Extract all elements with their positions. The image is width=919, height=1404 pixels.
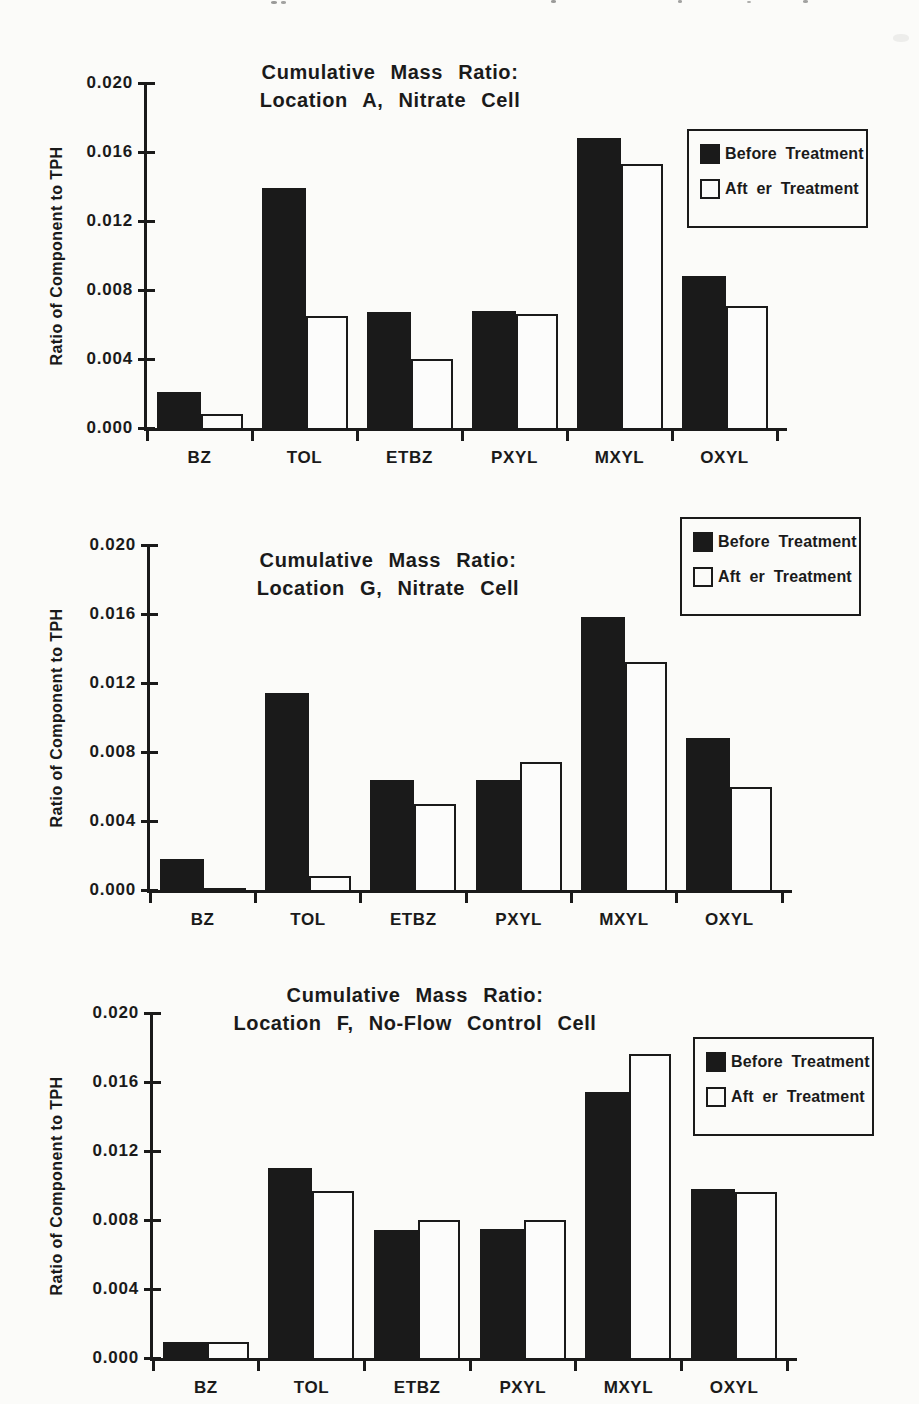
y-axis-tick-label: 0.004 (84, 811, 136, 831)
x-axis-tick (149, 892, 152, 903)
bar-group: PXYL (470, 1013, 576, 1358)
bar-after-treatment (414, 804, 456, 890)
y-axis-tick (138, 358, 155, 361)
y-axis-tick-label: 0.020 (84, 535, 136, 555)
x-axis-category-label: OXYL (672, 448, 777, 468)
legend: Before Treatment Aft er Treatment (687, 129, 868, 228)
y-axis-tick-label: 0.016 (81, 142, 133, 162)
legend-item-before: Before Treatment (693, 532, 859, 552)
chart-location-f-no-flow-control-cell: Cumulative Mass Ratio: Location F, No-Fl… (0, 0, 919, 1404)
legend-swatch-after-open-square (706, 1087, 726, 1107)
x-axis-line (787, 1358, 797, 1361)
bar-group: BZ (153, 1013, 259, 1358)
bar-before-treatment (476, 780, 520, 890)
bar-before-treatment (160, 859, 204, 890)
x-axis-tick (566, 430, 569, 441)
legend-label-before: Before Treatment (731, 1053, 870, 1071)
bar-before-treatment (262, 188, 306, 428)
bar-group: ETBZ (364, 1013, 470, 1358)
x-axis-tick (363, 1360, 366, 1371)
y-axis-tick (144, 1012, 161, 1015)
y-axis-tick-label: 0.000 (84, 880, 136, 900)
x-axis-tick (786, 1360, 789, 1371)
x-axis-tick (469, 1360, 472, 1371)
y-axis-tick (141, 613, 158, 616)
legend-swatch-before-filled-square (693, 532, 713, 552)
bar-before-treatment (265, 693, 309, 890)
x-axis-tick (257, 1360, 260, 1371)
bar-before-treatment (577, 138, 621, 428)
x-axis-category-label: OXYL (681, 1378, 787, 1398)
y-axis-tick-label: 0.008 (84, 742, 136, 762)
x-axis-tick (251, 430, 254, 441)
y-axis-tick-label: 0.000 (81, 418, 133, 438)
chart-title-line1: Cumulative Mass Ratio: (234, 981, 597, 1009)
bar-after-treatment (621, 164, 663, 428)
x-axis-tick (680, 1360, 683, 1371)
chart-title-line2: Location G, Nitrate Cell (257, 574, 520, 602)
y-axis-label: Ratio of Component to TPH (48, 1077, 66, 1296)
legend-swatch-after-open-square (700, 179, 720, 199)
bar-before-treatment (370, 780, 414, 890)
plot-area: 0.0200.0160.0120.0080.0040.000BZTOLETBZP… (150, 1013, 787, 1361)
bar-after-treatment (201, 414, 243, 428)
x-axis-category-label: PXYL (466, 910, 571, 930)
chart-location-g-nitrate-cell: Cumulative Mass Ratio: Location G, Nitra… (0, 0, 919, 1404)
bar-group: MXYL (576, 1013, 682, 1358)
x-axis-tick (146, 430, 149, 441)
y-axis-tick (138, 427, 155, 430)
x-axis-tick (570, 892, 573, 903)
bar-before-treatment (581, 617, 625, 890)
x-axis-tick (671, 430, 674, 441)
chart-title: Cumulative Mass Ratio: Location A, Nitra… (260, 58, 521, 115)
x-axis-tick (152, 1360, 155, 1371)
x-axis-tick (254, 892, 257, 903)
bar-group: BZ (147, 83, 252, 428)
bar-group: TOL (252, 83, 357, 428)
bar-before-treatment (691, 1189, 735, 1358)
bar-before-treatment (374, 1230, 418, 1358)
scan-artifact (747, 1, 751, 3)
legend-swatch-after-open-square (693, 567, 713, 587)
bar-group: MXYL (571, 545, 676, 890)
legend-item-after: Aft er Treatment (706, 1087, 872, 1107)
y-axis-tick (144, 1219, 161, 1222)
scan-artifact (281, 1, 286, 4)
x-axis-tick (356, 430, 359, 441)
bar-group: MXYL (567, 83, 672, 428)
x-axis-tick (776, 430, 779, 441)
bar-group: ETBZ (357, 83, 462, 428)
legend-label-after: Aft er Treatment (718, 568, 852, 586)
bar-before-treatment (682, 276, 726, 428)
bar-after-treatment (411, 359, 453, 428)
y-axis-tick-label: 0.012 (87, 1141, 139, 1161)
legend: Before Treatment Aft er Treatment (693, 1037, 874, 1136)
y-axis-tick-label: 0.012 (81, 211, 133, 231)
y-axis-tick-label: 0.004 (87, 1279, 139, 1299)
x-axis-tick (465, 892, 468, 903)
bar-before-treatment (163, 1342, 207, 1358)
bar-after-treatment (629, 1054, 671, 1358)
bar-after-treatment (625, 662, 667, 890)
bar-group: OXYL (672, 83, 777, 428)
y-axis-tick (141, 820, 158, 823)
chart-title-line2: Location F, No-Flow Control Cell (234, 1009, 597, 1037)
y-axis-tick-label: 0.020 (87, 1003, 139, 1023)
legend-item-after: Aft er Treatment (693, 567, 859, 587)
scan-artifact (678, 0, 682, 3)
chart-title: Cumulative Mass Ratio: Location G, Nitra… (257, 546, 520, 603)
plot-area: 0.0200.0160.0120.0080.0040.000BZTOLETBZP… (144, 83, 777, 431)
x-axis-category-label: MXYL (571, 910, 676, 930)
x-axis-category-label: ETBZ (361, 910, 466, 930)
y-axis-tick (141, 889, 158, 892)
x-axis-tick (781, 892, 784, 903)
bar-before-treatment (585, 1092, 629, 1358)
bar-after-treatment (735, 1192, 777, 1358)
y-axis-label: Ratio of Component to TPH (48, 609, 66, 828)
scan-artifact (271, 1, 277, 4)
x-axis-category-label: TOL (255, 910, 360, 930)
x-axis-line (777, 428, 787, 431)
chart-location-a-nitrate-cell: Cumulative Mass Ratio: Location A, Nitra… (0, 0, 919, 1404)
y-axis-tick (144, 1081, 161, 1084)
y-axis-tick-label: 0.004 (81, 349, 133, 369)
